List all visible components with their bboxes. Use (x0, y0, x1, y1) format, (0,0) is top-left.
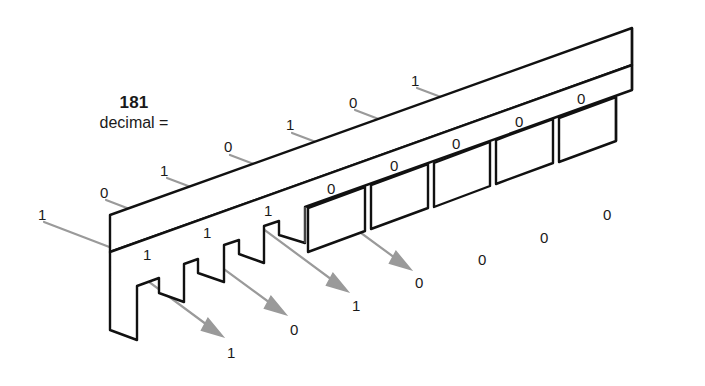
trailing-zero-label: 0 (415, 275, 423, 290)
face-label: 1 (143, 247, 151, 262)
leader-label: 1 (38, 207, 46, 222)
leader-label: 1 (411, 73, 419, 88)
leader-label: 1 (286, 117, 294, 132)
face-label: 0 (515, 114, 523, 129)
face-label: 1 (264, 203, 272, 218)
trailing-zero-label: 0 (540, 230, 548, 245)
face-label: 0 (452, 136, 460, 151)
arrow-label: 1 (227, 345, 235, 360)
decimal-label: decimal = (74, 113, 194, 133)
face-label: 0 (390, 158, 398, 173)
decimal-value: 181 (74, 93, 194, 113)
face-label: 0 (577, 91, 585, 106)
figure-canvas: 181 decimal = 1 0 1 0 1 0 1 1 1 1 0 0 0 … (0, 0, 705, 386)
leader-label: 0 (224, 139, 232, 154)
leader-label: 0 (100, 185, 108, 200)
arrow-label: 1 (352, 298, 360, 313)
trailing-zero-label: 0 (603, 207, 611, 222)
leader-label: 1 (160, 163, 168, 178)
arrow-label: 0 (290, 322, 298, 337)
face-label: 0 (327, 181, 335, 196)
figure-caption: 181 decimal = (74, 93, 194, 133)
trailing-zero-label: 0 (478, 252, 486, 267)
face-label: 1 (203, 225, 211, 240)
leader-label: 0 (349, 95, 357, 110)
